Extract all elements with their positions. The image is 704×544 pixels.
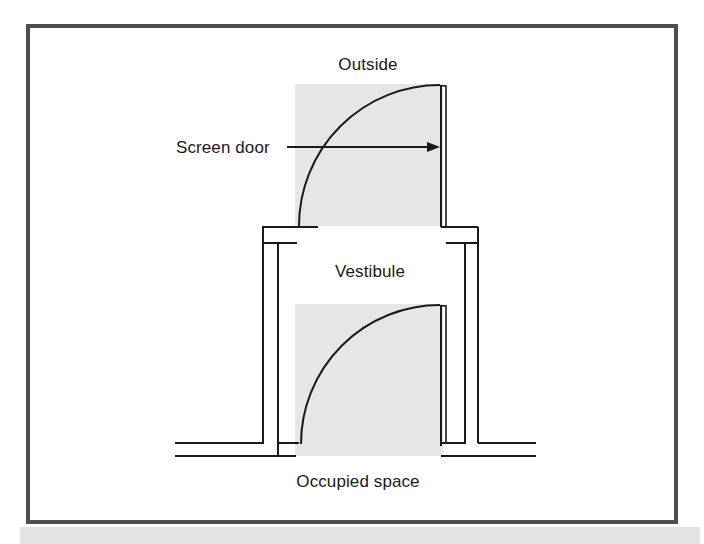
- figure-root: Outside Screen door Vestibule Occupied s…: [0, 0, 704, 544]
- diagram-canvas: Outside Screen door Vestibule Occupied s…: [0, 0, 704, 544]
- label-outside: Outside: [338, 55, 397, 74]
- bottom-gray-band: [20, 527, 700, 544]
- label-occupied-space: Occupied space: [296, 472, 419, 491]
- label-screen-door: Screen door: [176, 138, 270, 157]
- label-vestibule: Vestibule: [335, 262, 405, 281]
